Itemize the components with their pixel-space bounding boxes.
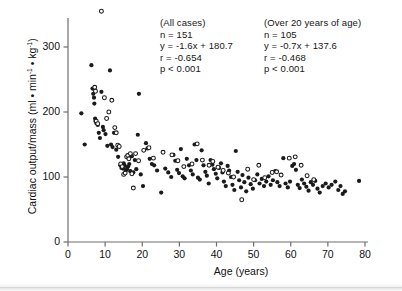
data-point-closed — [116, 155, 120, 159]
data-point-closed — [79, 111, 83, 115]
data-point-closed — [246, 176, 250, 180]
data-point-closed — [205, 174, 209, 178]
data-point-closed — [306, 189, 310, 193]
data-point-closed — [304, 185, 308, 189]
x-axis-label: Age (years) — [0, 265, 402, 277]
data-point-open — [200, 158, 204, 162]
annotation-all-cases-r: r = -0.654 — [160, 52, 233, 64]
data-point-open — [226, 171, 230, 175]
data-point-closed — [191, 172, 195, 176]
data-point-closed — [212, 167, 216, 171]
data-point-open — [142, 148, 146, 152]
data-point-open — [131, 186, 135, 190]
data-point-closed — [278, 184, 282, 188]
data-point-closed — [300, 178, 304, 182]
data-point-closed — [311, 183, 315, 187]
annotation-over-20-p: p < 0.001 — [264, 63, 361, 75]
data-point-open — [252, 178, 256, 182]
data-point-closed — [194, 158, 198, 162]
data-point-closed — [144, 141, 148, 145]
data-point-closed — [182, 176, 186, 180]
data-point-open — [99, 9, 103, 13]
data-point-closed — [141, 184, 145, 188]
data-point-closed — [234, 149, 238, 153]
data-point-closed — [97, 131, 101, 135]
data-point-open — [279, 173, 283, 177]
x-tick-label: 20 — [129, 248, 155, 260]
data-point-open — [211, 159, 215, 163]
data-point-open — [123, 171, 127, 175]
y-axis-label-mid: • kg — [26, 48, 38, 69]
data-point-open — [147, 146, 151, 150]
data-point-closed — [185, 157, 189, 161]
data-point-closed — [159, 191, 163, 195]
data-point-closed — [215, 176, 219, 180]
x-tick-label: 0 — [55, 248, 81, 260]
data-point-open — [263, 176, 267, 180]
annotation-over-20-equation: y = -0.7x + 137.6 — [264, 40, 361, 52]
data-point-closed — [236, 170, 240, 174]
data-point-open — [195, 142, 199, 146]
data-point-closed — [255, 172, 259, 176]
data-point-closed — [298, 186, 302, 190]
data-point-open — [114, 131, 118, 135]
data-point-closed — [155, 168, 159, 172]
data-point-closed — [249, 182, 253, 186]
x-tick-label: 60 — [278, 248, 304, 260]
data-point-closed — [336, 188, 340, 192]
x-tick-label: 40 — [204, 248, 230, 260]
data-point-closed — [139, 172, 143, 176]
data-point-closed — [283, 181, 287, 185]
data-point-closed — [102, 128, 106, 132]
data-point-open — [190, 162, 194, 166]
annotation-all-cases: (All cases) n = 151 y = -1.6x + 180.7 r … — [160, 17, 233, 75]
data-point-closed — [244, 189, 248, 193]
annotation-over-20-header: (Over 20 years of age) — [264, 17, 361, 29]
data-point-open — [270, 171, 274, 175]
data-point-open — [287, 156, 291, 160]
data-point-closed — [152, 163, 156, 167]
data-point-closed — [222, 179, 226, 183]
data-point-closed — [163, 166, 167, 170]
data-point-closed — [200, 148, 204, 152]
x-tick-label: 10 — [92, 248, 118, 260]
data-point-open — [176, 159, 180, 163]
y-axis-label-end: ) — [26, 38, 38, 42]
data-point-closed — [177, 171, 181, 175]
data-point-closed — [89, 63, 93, 67]
data-point-closed — [189, 168, 193, 172]
y-axis-label-sup2: -1 — [26, 42, 33, 48]
x-tick-label: 80 — [352, 248, 378, 260]
data-point-closed — [292, 162, 296, 166]
data-point-open — [312, 178, 316, 182]
data-point-closed — [226, 164, 230, 168]
data-point-closed — [99, 90, 103, 94]
data-point-closed — [251, 187, 255, 191]
data-point-closed — [357, 179, 361, 183]
data-point-open — [221, 169, 225, 173]
data-point-open — [128, 152, 132, 156]
data-point-open — [216, 165, 220, 169]
x-axis-label-text: Age (years) — [214, 265, 268, 277]
data-point-closed — [262, 184, 266, 188]
data-point-closed — [237, 178, 241, 182]
data-point-open — [134, 152, 138, 156]
data-point-open — [240, 198, 244, 202]
data-point-closed — [232, 188, 236, 192]
data-point-closed — [219, 161, 223, 165]
annotation-over-20-r: r = -0.468 — [264, 52, 361, 64]
data-point-closed — [230, 183, 234, 187]
annotation-over-20-n: n = 105 — [264, 29, 361, 41]
data-point-closed — [110, 145, 114, 149]
data-point-open — [305, 174, 309, 178]
data-point-closed — [134, 167, 138, 171]
figure-container: 0100200300 01020304050607080 Cardiac out… — [0, 0, 402, 291]
data-point-open — [246, 167, 250, 171]
data-point-closed — [92, 96, 96, 100]
data-point-closed — [242, 180, 246, 184]
data-point-open — [93, 85, 97, 89]
data-point-open — [110, 98, 114, 102]
data-point-closed — [281, 156, 285, 160]
y-axis-label: Cardiac output/mass (ml • min-1 • kg-1) — [26, 6, 39, 246]
data-point-open — [107, 110, 111, 114]
